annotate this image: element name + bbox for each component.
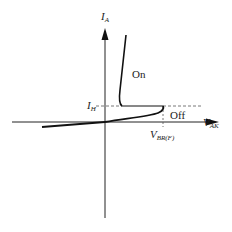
y-axis-arrow-icon xyxy=(102,28,109,40)
off-region-label: Off xyxy=(170,109,185,121)
breakover-voltage-label: VBR(F) xyxy=(150,128,175,142)
iv-curve-svg: IA VAK IH VBR(F) On Off xyxy=(0,0,232,232)
y-axis-label: IA xyxy=(100,10,110,24)
on-state-curve xyxy=(119,35,126,106)
x-axis-label: VAK xyxy=(203,116,219,130)
thyristor-iv-diagram: IA VAK IH VBR(F) On Off xyxy=(0,0,232,232)
forward-blocking-curve xyxy=(105,106,163,122)
holding-current-label: IH xyxy=(86,99,97,113)
on-region-label: On xyxy=(132,68,146,80)
reverse-curve xyxy=(42,122,105,127)
